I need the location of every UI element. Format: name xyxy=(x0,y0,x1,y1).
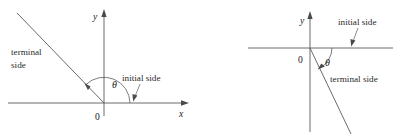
angle-standard-position-figure: terminal side initial side θ 0 y x xyxy=(0,0,393,137)
left-panel-group: terminal side initial side θ 0 y x xyxy=(8,9,189,122)
figure-svg: terminal side initial side θ 0 y x xyxy=(0,0,393,137)
right-terminal-side-ray xyxy=(310,48,351,134)
right-origin-label: 0 xyxy=(298,54,303,65)
right-initial-side-label: initial side xyxy=(338,17,377,27)
right-theta-label: θ xyxy=(325,57,330,68)
left-theta-label: θ xyxy=(112,79,117,90)
left-y-axis-label: y xyxy=(92,11,98,22)
right-initial-side-leader-arrowhead xyxy=(350,39,355,47)
right-y-axis-arrowhead xyxy=(307,11,312,19)
left-initial-side-label: initial side xyxy=(122,73,161,83)
left-terminal-side-label-line2: side xyxy=(11,60,26,70)
left-terminal-side-ray xyxy=(17,13,104,103)
left-y-axis-arrowhead xyxy=(101,9,106,17)
left-x-axis-label: x xyxy=(178,108,184,119)
left-x-axis-arrowhead xyxy=(181,100,189,105)
right-panel-group: initial side terminal side θ 0 y xyxy=(248,11,393,134)
left-origin-label: 0 xyxy=(95,111,100,122)
left-initial-side-leader-arrowhead xyxy=(132,94,137,102)
right-y-axis-label: y xyxy=(299,15,305,26)
right-terminal-side-label: terminal side xyxy=(330,74,378,84)
left-angle-arc-arrowhead xyxy=(84,83,90,90)
left-terminal-side-label-line1: terminal xyxy=(11,47,42,57)
